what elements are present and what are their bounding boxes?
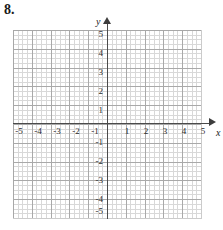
x-tick-label: 4 <box>176 126 192 136</box>
y-axis-line <box>107 22 108 219</box>
x-tick-label: 5 <box>195 126 211 136</box>
x-axis-label: x <box>216 127 220 138</box>
problem-number: 8. <box>4 2 15 18</box>
y-axis-arrow-icon <box>103 17 111 24</box>
y-tick-label: 3 <box>87 67 103 77</box>
x-tick-label: -5 <box>11 126 27 136</box>
y-tick-label: 1 <box>87 105 103 115</box>
x-tick-label: 2 <box>138 126 154 136</box>
coordinate-grid: x y -5 -4 -3 -2 -1 1 2 3 4 5 5 4 3 2 1 -… <box>13 30 201 218</box>
y-tick-label: 5 <box>87 29 103 39</box>
y-tick-label: -5 <box>87 206 103 216</box>
x-tick-label: -2 <box>68 126 84 136</box>
x-axis-line <box>13 123 210 124</box>
x-tick-label: -4 <box>30 126 46 136</box>
y-tick-label: 4 <box>87 48 103 58</box>
x-tick-label: -1 <box>87 126 103 136</box>
y-tick-label: -2 <box>87 156 103 166</box>
x-tick-label: 1 <box>119 126 135 136</box>
y-tick-label: -1 <box>87 137 103 147</box>
x-tick-label: -3 <box>49 126 65 136</box>
y-tick-label: 2 <box>87 86 103 96</box>
y-tick-label: -4 <box>87 194 103 204</box>
x-tick-label: 3 <box>157 126 173 136</box>
y-axis-label: y <box>96 16 100 27</box>
x-axis-arrow-icon <box>209 118 216 126</box>
y-tick-label: -3 <box>87 175 103 185</box>
